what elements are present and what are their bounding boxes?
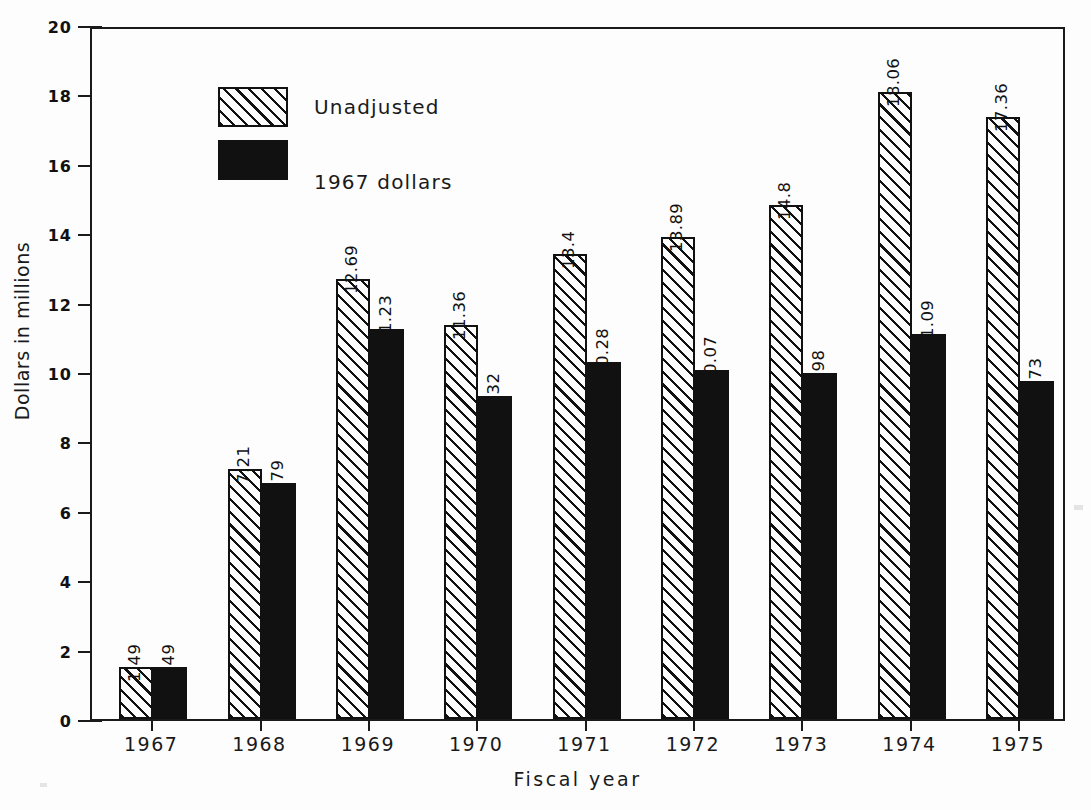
bar-value-label: 12.69 <box>342 244 361 293</box>
bar-value-label: 17.36 <box>992 82 1011 131</box>
bar-1975-adjusted <box>1020 381 1054 719</box>
legend-label: Unadjusted <box>314 95 440 119</box>
x-axis-tick <box>1018 719 1020 731</box>
bar-1969-adjusted <box>370 329 404 719</box>
x-axis-tick <box>260 719 262 731</box>
bar-value-label: 9.32 <box>484 372 503 410</box>
bar-value-label: 7.21 <box>234 445 253 483</box>
x-axis-tick-label: 1974 <box>855 733 965 755</box>
bar-value-label: 13.4 <box>559 231 578 269</box>
bar-1971-adjusted <box>587 362 621 719</box>
scan-speck <box>1074 505 1083 510</box>
x-axis-tick-label: 1968 <box>205 733 315 755</box>
bar-value-label: 11.09 <box>918 300 937 349</box>
x-axis-tick <box>151 719 153 731</box>
x-axis-tick <box>476 719 478 731</box>
bar-1970-unadjusted <box>444 325 478 719</box>
x-axis-tick-label: 1967 <box>96 733 206 755</box>
legend-label: 1967 dollars <box>314 170 453 194</box>
bar-value-label: 9.98 <box>809 349 828 387</box>
bar-1968-adjusted <box>262 483 296 719</box>
bar-value-label: 18.06 <box>884 58 903 107</box>
bar-1974-adjusted <box>912 334 946 719</box>
bar-1975-unadjusted <box>986 117 1020 719</box>
bar-1971-unadjusted <box>553 254 587 719</box>
x-axis-title: Fiscal year <box>90 768 1065 790</box>
bar-1972-adjusted <box>695 370 729 719</box>
bar-value-label: 14.8 <box>775 182 794 220</box>
bar-value-label: 11.36 <box>450 291 469 340</box>
bar-value-label: 9.73 <box>1026 358 1045 396</box>
bar-1974-unadjusted <box>878 92 912 719</box>
bar-value-label: 1.49 <box>159 644 178 682</box>
bar-1969-unadjusted <box>336 279 370 719</box>
x-axis-tick <box>368 719 370 731</box>
x-axis-tick <box>910 719 912 731</box>
bar-value-label: 10.07 <box>701 335 720 384</box>
x-axis-tick-label: 1971 <box>530 733 640 755</box>
bar-1973-adjusted <box>803 373 837 719</box>
bar-1970-adjusted <box>478 396 512 719</box>
plot-area: 1.491.497.216.7912.6911.2311.369.3213.41… <box>90 27 1065 721</box>
bar-1972-unadjusted <box>661 237 695 719</box>
x-axis-tick-label: 1973 <box>746 733 856 755</box>
y-axis-title: Dollars in millions <box>11 0 33 681</box>
bar-value-label: 13.89 <box>667 203 686 252</box>
bar-value-label: 11.23 <box>376 295 395 344</box>
bar-1968-unadjusted <box>228 469 262 719</box>
bar-1973-unadjusted <box>769 205 803 719</box>
x-axis-tick-label: 1970 <box>421 733 531 755</box>
hatched-swatch-icon <box>218 87 288 127</box>
y-axis-tick-label: 0 <box>14 712 72 731</box>
x-axis-tick-label: 1969 <box>313 733 423 755</box>
bar-value-label: 10.28 <box>593 328 612 377</box>
x-axis-tick-label: 1975 <box>963 733 1073 755</box>
x-axis-tick <box>801 719 803 731</box>
bar-value-label: 6.79 <box>268 460 287 498</box>
x-axis-tick-label: 1972 <box>638 733 748 755</box>
x-axis-tick <box>585 719 587 731</box>
x-axis-tick <box>693 719 695 731</box>
solid-black-swatch-icon <box>218 140 288 180</box>
bar-chart: 02468101214161820 Dollars in millions 1.… <box>0 0 1091 810</box>
bar-value-label: 1.49 <box>125 644 144 682</box>
scan-speck <box>40 783 47 787</box>
